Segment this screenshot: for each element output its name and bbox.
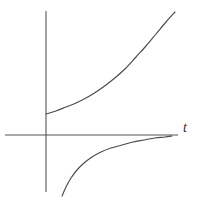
x-axis-label: t	[183, 121, 187, 135]
curves-group	[46, 12, 175, 196]
curve-lower-branch	[62, 136, 172, 196]
plot-canvas	[0, 0, 206, 206]
curve-upper-branch	[46, 12, 175, 114]
graph-figure: t	[0, 0, 206, 206]
